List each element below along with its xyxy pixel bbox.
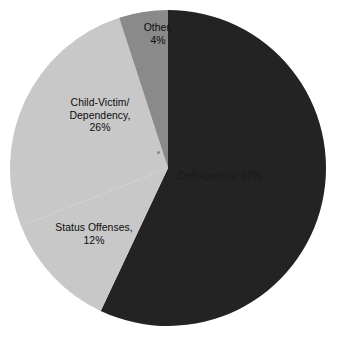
scan-artifact-speck (157, 151, 160, 154)
pie-slice-group (10, 10, 326, 326)
pie-chart: Delinquency, 57% Child-Victim/ Dependenc… (0, 0, 340, 338)
pie-chart-canvas (0, 0, 340, 338)
